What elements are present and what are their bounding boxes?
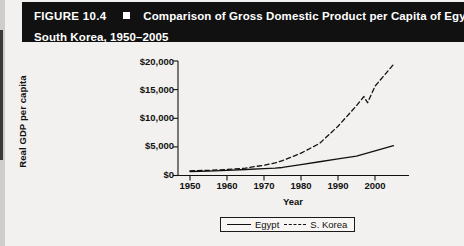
figure-title-line-2: South Korea, 1950–2005 xyxy=(34,31,169,43)
x-tick-label: 1970 xyxy=(244,180,284,191)
figure-header: FIGURE 10.4 Comparison of Gross Domestic… xyxy=(22,2,464,42)
legend-label-s-korea: S. Korea xyxy=(310,219,347,230)
legend-swatch-solid-icon xyxy=(227,224,251,225)
x-axis-title: Year xyxy=(178,196,408,207)
y-axis-ticks xyxy=(173,61,178,176)
legend-label-egypt: Egypt xyxy=(255,219,279,230)
x-tick-label: 1990 xyxy=(318,180,358,191)
figure-header-line-2: South Korea, 1950–2005 xyxy=(34,27,456,43)
legend-item-egypt: Egypt xyxy=(227,219,279,230)
chart-area: Real GDP per capita $20,000 $15,000 $10,… xyxy=(0,44,464,246)
figure-page: FIGURE 10.4 Comparison of Gross Domestic… xyxy=(0,0,464,246)
x-tick-label: 2000 xyxy=(355,180,395,191)
x-tick-label: 1950 xyxy=(170,180,210,191)
legend-item-s-korea: S. Korea xyxy=(284,219,347,230)
legend-swatch-dashed-icon xyxy=(284,224,306,225)
x-tick-label: 1980 xyxy=(281,180,321,191)
figure-title-line-1: Comparison of Gross Domestic Product per… xyxy=(143,10,464,22)
figure-header-line-1: FIGURE 10.4 Comparison of Gross Domestic… xyxy=(34,7,456,24)
chart-legend: Egypt S. Korea xyxy=(220,217,355,232)
plot-svg xyxy=(0,44,464,246)
square-marker-icon xyxy=(123,12,130,19)
figure-number: FIGURE 10.4 xyxy=(34,10,106,22)
x-tick-label: 1960 xyxy=(207,180,247,191)
series-line-egypt xyxy=(190,146,394,172)
